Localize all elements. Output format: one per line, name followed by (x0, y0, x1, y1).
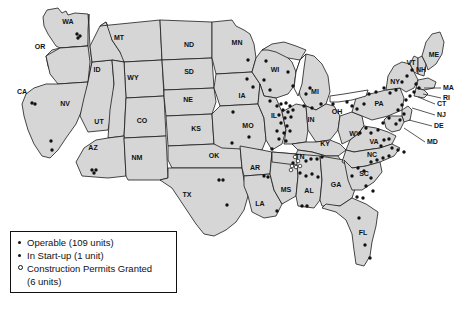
site-marker-operable (288, 104, 291, 107)
state-ar[interactable] (240, 146, 272, 176)
site-marker-operable (355, 107, 358, 110)
state-wa[interactable] (43, 8, 89, 48)
state-mn[interactable] (212, 20, 256, 74)
open-circle-icon (18, 263, 27, 275)
site-marker-operable (275, 104, 278, 107)
site-marker-operable (302, 104, 305, 107)
site-marker-permit (298, 164, 302, 168)
site-marker-permit (290, 164, 294, 168)
state-label-fl: FL (359, 229, 368, 236)
site-marker-operable (361, 196, 364, 199)
state-label-la: LA (255, 200, 264, 207)
state-label-nm: NM (132, 154, 143, 161)
state-al[interactable] (296, 154, 322, 208)
leader-line-md (404, 128, 425, 142)
state-label-ny: NY (390, 78, 400, 85)
site-marker-operable (320, 155, 323, 158)
site-marker-operable (376, 128, 379, 131)
state-de-md[interactable] (384, 116, 404, 132)
state-label-ga: GA (331, 181, 342, 188)
state-az[interactable] (76, 136, 126, 178)
state-label-ms: MS (281, 186, 292, 193)
site-marker-operable (75, 32, 78, 35)
state-label-ma: MA (443, 84, 454, 91)
site-marker-operable (270, 147, 273, 150)
site-marker-operable (319, 102, 322, 105)
state-label-tx: TX (183, 191, 192, 198)
state-in[interactable] (282, 104, 308, 144)
state-label-mt: MT (114, 34, 125, 41)
legend-item-startup: In Start-up (1 unit) (18, 250, 170, 262)
site-marker-operable (408, 94, 411, 97)
site-marker-operable (350, 174, 353, 177)
site-marker-operable (363, 243, 366, 246)
site-marker-operable (396, 108, 399, 111)
site-marker-operable (369, 160, 372, 163)
site-marker-operable (405, 74, 408, 77)
site-marker-operable (382, 86, 385, 89)
legend-label-permits-continuation: (6 units) (18, 276, 170, 288)
state-label-az: AZ (88, 144, 98, 151)
site-marker-operable (375, 158, 378, 161)
site-marker-operable (304, 174, 307, 177)
state-label-oh: OH (332, 108, 343, 115)
state-fl[interactable] (322, 198, 378, 266)
site-marker-operable (288, 129, 291, 132)
state-label-nc: NC (367, 151, 377, 158)
site-marker-operable (230, 141, 233, 144)
legend-box: Operable (109 units) In Start-up (1 unit… (10, 231, 177, 293)
site-marker-operable (305, 204, 308, 207)
site-marker-operable (264, 59, 267, 62)
state-label-id: ID (94, 66, 101, 73)
legend-item-operable: Operable (109 units) (18, 237, 170, 249)
state-label-or: OR (35, 43, 46, 50)
site-marker-operable (387, 154, 390, 157)
leader-line-ct (418, 97, 435, 104)
site-marker-operable (283, 116, 286, 119)
state-shapes (22, 8, 444, 266)
site-marker-operable (381, 156, 384, 159)
state-ia[interactable] (214, 72, 260, 106)
state-label-co: CO (137, 117, 148, 124)
site-marker-operable (387, 137, 390, 140)
legend-item-permits: Construction Permits Granted (18, 263, 170, 275)
site-marker-permit (294, 165, 298, 169)
site-marker-operable (308, 86, 311, 89)
state-label-ut: UT (94, 118, 104, 125)
leader-line-de (409, 120, 432, 126)
state-mo[interactable] (212, 104, 266, 150)
site-marker-operable (286, 70, 289, 73)
site-marker-operable (368, 256, 371, 259)
state-label-ct: CT (437, 100, 447, 107)
site-marker-operable (345, 100, 348, 103)
site-marker-operable (50, 148, 53, 151)
legend-label-permits: Construction Permits Granted (27, 263, 170, 275)
site-marker-operable (247, 135, 250, 138)
site-marker-operable (225, 203, 228, 206)
state-label-ia: IA (239, 92, 246, 99)
state-label-pa: PA (374, 100, 383, 107)
site-marker-operable (275, 129, 278, 132)
site-marker-operable (367, 92, 370, 95)
site-marker-operable (251, 85, 254, 88)
site-marker-operable (350, 104, 353, 107)
state-label-ca: CA (17, 88, 27, 95)
state-label-wa: WA (62, 18, 73, 25)
filled-dot-icon (18, 237, 27, 249)
site-marker-operable (268, 99, 271, 102)
state-ks[interactable] (166, 114, 214, 146)
state-ca[interactable] (22, 82, 88, 158)
site-marker-operable (362, 169, 365, 172)
state-label-vt: VT (407, 59, 417, 66)
site-marker-operable (33, 102, 36, 105)
site-marker-operable (30, 101, 33, 104)
site-marker-operable (279, 121, 282, 124)
site-marker-operable (382, 138, 385, 141)
site-marker-operable (398, 118, 401, 121)
site-marker-operable (266, 175, 269, 178)
site-marker-operable (394, 122, 397, 125)
site-marker-operable (414, 82, 417, 85)
state-tx[interactable] (160, 168, 248, 236)
state-label-ne: NE (183, 96, 193, 103)
site-marker-operable (362, 102, 365, 105)
